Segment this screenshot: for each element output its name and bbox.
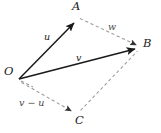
- point-label-c: C: [75, 115, 84, 127]
- vector-label-u: u: [44, 32, 50, 42]
- point-label-b: B: [143, 38, 151, 50]
- vector-diagram-figure: O A B C u v w v − u: [0, 0, 161, 133]
- vector-label-v-minus-u: v − u: [19, 98, 45, 108]
- point-label-o: O: [4, 66, 13, 78]
- solid-vectors-group: [19, 23, 135, 79]
- dashed-edge-c-to-b-line: [81, 51, 138, 111]
- point-label-a: A: [72, 1, 80, 13]
- vector-label-v: v: [76, 53, 81, 63]
- vector-label-w: w: [108, 22, 116, 32]
